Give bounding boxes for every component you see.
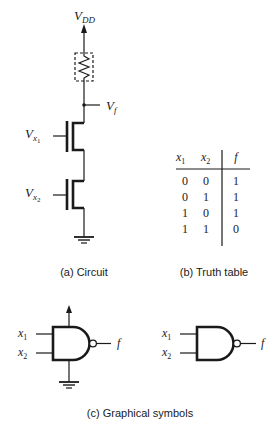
svg-text:1: 1 [233,206,239,220]
nand-gate-icon [197,327,234,360]
resistor-icon [79,52,89,82]
table-row: 1 1 0 [182,222,239,236]
table-row: 0 0 1 [182,174,239,188]
header-x1: x1 [175,150,185,166]
nand-gate-figure: VDD Vf Vx1 Vx2 [0,0,277,436]
input-x2-label: x2 [17,345,27,361]
nand-symbol-with-power: x1 x2 f [17,305,122,388]
vdd-label: VDD [74,8,95,25]
truth-table: x1 x2 f 0 0 1 0 1 1 1 0 1 1 1 0 (b) Trut… [175,150,250,278]
svg-text:1: 1 [182,206,188,220]
svg-text:1: 1 [233,190,239,204]
ground-icon [74,237,94,243]
svg-text:0: 0 [182,174,188,188]
inversion-bubble-icon [90,340,97,347]
caption-circuit: (a) Circuit [60,266,108,278]
vf-label: Vf [106,98,118,115]
nmos-transistor-1: Vx1 [25,121,84,152]
vdd-arrow-icon [66,305,72,313]
input-x2-label: x2 [161,345,171,361]
svg-text:1: 1 [233,174,239,188]
arrow-head-icon [81,24,87,33]
nmos-nand-circuit: VDD Vf Vx1 Vx2 [25,8,118,278]
inversion-bubble-icon [234,340,241,347]
svg-text:0: 0 [182,190,188,204]
nand-symbol: x1 x2 f [161,326,266,361]
vx2-label: Vx2 [25,185,41,204]
svg-text:0: 0 [203,174,209,188]
output-f-label: f [261,336,266,350]
table-row: 1 0 1 [182,206,239,220]
header-x2: x2 [200,150,210,166]
svg-text:1: 1 [203,190,209,204]
input-x1-label: x1 [17,326,27,342]
svg-text:0: 0 [233,222,239,236]
table-row: 0 1 1 [182,190,239,204]
svg-text:1: 1 [182,222,188,236]
ground-icon [59,382,79,388]
nmos-transistor-2: Vx2 [25,179,84,210]
svg-text:1: 1 [203,222,209,236]
input-x1-label: x1 [161,326,171,342]
nand-gate-icon [53,327,90,360]
caption-graphical-symbols: (c) Graphical symbols [87,407,194,419]
caption-truth-table: (b) Truth table [180,266,248,278]
header-f: f [234,150,239,164]
output-f-label: f [117,336,122,350]
svg-text:0: 0 [203,206,209,220]
vx1-label: Vx1 [25,126,41,145]
